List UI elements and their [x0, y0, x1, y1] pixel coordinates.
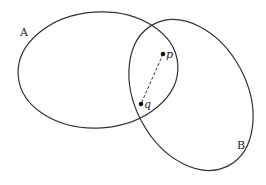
- point-q-label: q: [144, 98, 151, 111]
- set-b-label: B: [237, 139, 245, 152]
- set-a-ellipse: [14, 7, 182, 134]
- venn-diagram: A B p q: [0, 0, 266, 185]
- point-q: [139, 102, 144, 107]
- point-p: [161, 52, 166, 57]
- segment-pq: [141, 54, 163, 104]
- set-b-ellipse: [104, 0, 266, 185]
- set-a-label: A: [19, 26, 29, 39]
- point-p-label: p: [166, 48, 173, 61]
